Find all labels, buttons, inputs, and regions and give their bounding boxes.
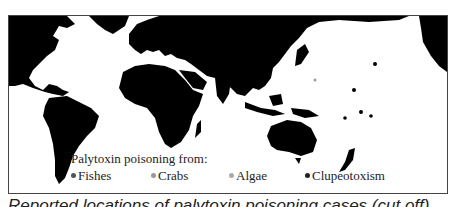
india: [215, 78, 231, 104]
new-guinea: [291, 108, 319, 118]
legend: Palytoxin poisoning from: Fishes Crabs A…: [71, 151, 208, 166]
madagascar: [195, 120, 201, 138]
dot-icon: [151, 173, 156, 178]
legend-item-fishes: Fishes: [71, 168, 111, 183]
dot-icon: [71, 173, 76, 178]
figure-caption: Reported locations of palytoxin poisonin…: [8, 196, 429, 207]
japan: [295, 44, 309, 66]
australia: [267, 120, 317, 156]
legend-title: Palytoxin poisoning from:: [71, 151, 208, 166]
greenland: [89, 16, 129, 34]
legend-item-crabs: Crabs: [151, 168, 188, 183]
dot-icon: [305, 173, 310, 178]
borneo: [269, 94, 283, 106]
world-map: [9, 16, 447, 193]
legend-item-algae: Algae: [229, 168, 267, 183]
map-frame: Palytoxin poisoning from: Fishes Crabs A…: [8, 15, 448, 194]
dot-icon: [229, 173, 234, 178]
north-america: [9, 16, 75, 96]
tasmania: [295, 158, 301, 164]
legend-item-clupeotoxism: Clupeotoxism: [305, 168, 385, 183]
north-america-west: [419, 16, 447, 72]
